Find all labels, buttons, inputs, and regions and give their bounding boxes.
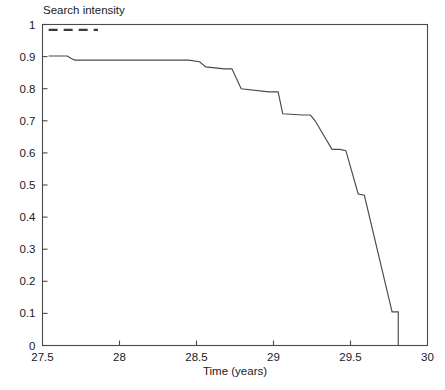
x-tick-label: 29.5 xyxy=(339,351,361,363)
y-tick-label: 1 xyxy=(29,19,35,31)
x-axis-tick-labels: 27.52828.52929.530 xyxy=(31,351,434,363)
x-tick-label: 30 xyxy=(421,351,434,363)
plot-frame xyxy=(43,25,428,346)
y-tick-label: 0.6 xyxy=(20,147,36,159)
y-axis-tick-labels: 00.10.20.30.40.50.60.70.80.91 xyxy=(20,19,37,352)
y-tick-label: 0.1 xyxy=(20,307,36,319)
y-tick-label: 0.5 xyxy=(20,179,36,191)
y-tick-label: 0.2 xyxy=(20,275,36,287)
x-tick-label: 29 xyxy=(267,351,280,363)
x-tick-label: 28.5 xyxy=(185,351,207,363)
x-axis-title: Time (years) xyxy=(203,365,267,377)
chart-screenshot: Search intensity 00.10.20.30.40.50.60.70… xyxy=(0,0,445,390)
search-intensity-curve xyxy=(49,56,399,346)
search-intensity-line-chart: Search intensity 00.10.20.30.40.50.60.70… xyxy=(0,0,445,390)
y-tick-label: 0.7 xyxy=(20,115,36,127)
y-axis-title: Search intensity xyxy=(43,4,125,16)
y-axis-tick-marks xyxy=(43,25,48,346)
y-tick-label: 0.4 xyxy=(20,211,37,223)
y-tick-label: 0.9 xyxy=(20,51,36,63)
x-tick-label: 27.5 xyxy=(31,351,53,363)
y-tick-label: 0.3 xyxy=(20,243,36,255)
x-axis-tick-marks xyxy=(120,341,351,346)
x-tick-label: 28 xyxy=(113,351,126,363)
y-tick-label: 0.8 xyxy=(20,83,36,95)
